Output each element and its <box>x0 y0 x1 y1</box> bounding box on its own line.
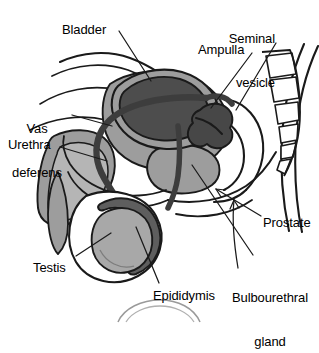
label-ampulla: Ampulla <box>198 43 244 58</box>
label-bladder: Bladder <box>62 23 106 38</box>
label-seminal-vesicle: Seminal vesicle <box>185 3 275 119</box>
vertebra-segment-3 <box>275 102 299 124</box>
label-epididymis: Epididymis <box>153 289 215 304</box>
vertebra-segment-4 <box>279 124 298 143</box>
label-bulbourethral-gland-line1: Bulbourethral <box>222 291 318 306</box>
label-vas-deferens-line1: Vas <box>2 122 72 137</box>
label-bulbourethral-gland-line2: gland <box>222 335 318 350</box>
label-prostate: Prostate <box>263 216 311 231</box>
label-seminal-vesicle-line2: vesicle <box>185 76 275 91</box>
label-vas-deferens-line2: deferens <box>2 166 72 181</box>
label-testis: Testis <box>33 261 66 276</box>
label-bulbourethral-gland: Bulbourethral gland <box>222 262 318 353</box>
prostate-mass <box>147 145 219 194</box>
label-urethra: Urethra <box>8 138 51 153</box>
